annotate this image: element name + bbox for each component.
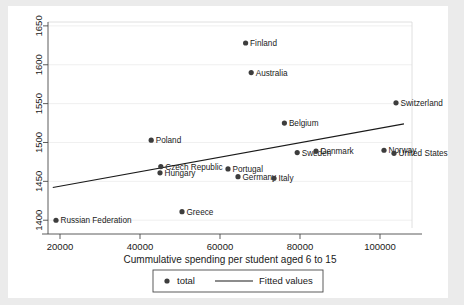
legend-label-fitted-values[interactable]: Fitted values bbox=[259, 275, 313, 286]
x-axis-tick-label: 40000 bbox=[127, 241, 153, 252]
data-point-marker[interactable] bbox=[157, 170, 162, 175]
x-axis: 20000400006000080000100000 bbox=[42, 234, 422, 252]
data-point-label: Greece bbox=[187, 208, 214, 217]
data-point-marker[interactable] bbox=[271, 176, 276, 181]
plot-border bbox=[48, 22, 412, 228]
data-point-label: United States bbox=[399, 149, 448, 158]
data-point-marker[interactable] bbox=[158, 164, 163, 169]
data-point-label: Italy bbox=[279, 174, 295, 183]
data-point-label: Finland bbox=[250, 39, 277, 48]
data-point-label: Poland bbox=[156, 136, 182, 145]
data-point-label: Belgium bbox=[289, 119, 319, 128]
plot-frame bbox=[48, 22, 412, 228]
y-axis-tick-label: 1650 bbox=[34, 15, 45, 36]
data-point-marker[interactable] bbox=[249, 70, 254, 75]
y-axis: 140014501500155016001650 bbox=[34, 15, 49, 234]
data-point-marker[interactable] bbox=[225, 166, 230, 171]
x-axis-tick-label: 60000 bbox=[207, 241, 233, 252]
data-point-marker[interactable] bbox=[393, 100, 398, 105]
y-axis-tick-label: 1400 bbox=[34, 210, 45, 231]
data-point-marker[interactable] bbox=[53, 218, 58, 223]
x-axis-title: Cummulative spending per student aged 6 … bbox=[124, 254, 337, 265]
data-point-marker[interactable] bbox=[243, 40, 248, 45]
y-axis-tick-label: 1550 bbox=[34, 93, 45, 114]
chart-figure: 140014501500155016001650 200004000060000… bbox=[0, 0, 464, 305]
gridlines bbox=[48, 26, 412, 220]
data-point-label: Hungary bbox=[165, 169, 197, 178]
data-point-marker[interactable] bbox=[282, 120, 287, 125]
chart-card: 140014501500155016001650 200004000060000… bbox=[8, 6, 448, 298]
data-point-marker[interactable] bbox=[381, 148, 386, 153]
data-point-label: Denmark bbox=[321, 147, 355, 156]
data-point-marker[interactable] bbox=[235, 174, 240, 179]
data-point-marker[interactable] bbox=[391, 151, 396, 156]
data-point-marker[interactable] bbox=[149, 138, 154, 143]
x-axis-title-text: Cummulative spending per student aged 6 … bbox=[124, 254, 337, 265]
x-axis-tick-label: 80000 bbox=[287, 241, 313, 252]
data-point-label: Australia bbox=[256, 69, 288, 78]
y-axis-tick-label: 1600 bbox=[34, 54, 45, 75]
data-point-label: Russian Federation bbox=[61, 216, 132, 225]
data-point-marker[interactable] bbox=[179, 209, 184, 214]
legend-label-total[interactable]: total bbox=[177, 275, 195, 286]
data-point-marker[interactable] bbox=[313, 148, 318, 153]
y-axis-tick-label: 1500 bbox=[34, 132, 45, 153]
legend-marker-total bbox=[164, 278, 169, 283]
x-axis-tick-label: 20000 bbox=[47, 241, 73, 252]
data-point-label: Switzerland bbox=[401, 99, 444, 108]
chart-legend[interactable]: totalFitted values bbox=[153, 270, 323, 292]
scatter-plot-canvas: 140014501500155016001650 200004000060000… bbox=[8, 6, 448, 298]
data-point-marker[interactable] bbox=[295, 150, 300, 155]
y-axis-tick-label: 1450 bbox=[34, 171, 45, 192]
data-points: Russian FederationPolandCzech RepublicHu… bbox=[53, 39, 447, 225]
x-axis-tick-label: 100000 bbox=[364, 241, 396, 252]
